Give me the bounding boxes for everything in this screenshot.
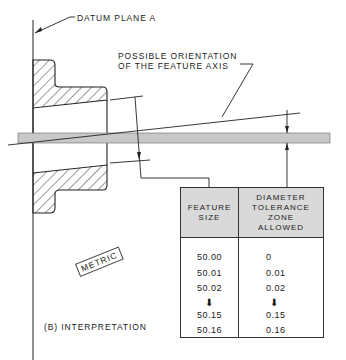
figure-caption: (B) INTERPRETATION bbox=[44, 322, 147, 332]
down-arrow-icon: ⬇ bbox=[266, 297, 279, 308]
header-feature-size: FEATURE SIZE bbox=[181, 188, 239, 237]
header-tolerance: DIAMETER TOLERANCE ZONE ALLOWED bbox=[239, 188, 323, 237]
tolerance-zone-band bbox=[18, 133, 330, 143]
table-cell: 50.15 bbox=[197, 308, 222, 324]
tolerance-column: 0 0.01 0.02 ⬇ 0.15 0.16 bbox=[239, 238, 323, 338]
lower-flange-section bbox=[33, 165, 107, 213]
table-cell: 0.02 bbox=[266, 281, 286, 297]
table-cell: 50.02 bbox=[197, 281, 222, 297]
orientation-label-line2: OF THE FEATURE AXIS bbox=[118, 61, 229, 71]
table-body: 50.00 50.01 50.02 ⬇ 50.15 50.16 0 0.01 0… bbox=[181, 238, 323, 338]
table-cell: 0.15 bbox=[266, 308, 286, 324]
feature-size-column: 50.00 50.01 50.02 ⬇ 50.15 50.16 bbox=[181, 238, 239, 338]
orientation-label-line1: POSSIBLE ORIENTATION bbox=[118, 51, 237, 61]
table-cell: 0.01 bbox=[266, 266, 286, 282]
tolerance-table: FEATURE SIZE DIAMETER TOLERANCE ZONE ALL… bbox=[180, 187, 324, 338]
orientation-leader bbox=[222, 64, 253, 117]
upper-flange-section bbox=[33, 60, 107, 108]
table-cell: 0 bbox=[266, 250, 272, 266]
down-arrow-icon: ⬇ bbox=[205, 297, 214, 308]
table-header: FEATURE SIZE DIAMETER TOLERANCE ZONE ALL… bbox=[181, 188, 323, 238]
table-cell: 0.16 bbox=[266, 323, 286, 339]
datum-plane-label: DATUM PLANE A bbox=[77, 13, 156, 23]
table-cell: 50.00 bbox=[197, 250, 222, 266]
table-cell: 50.16 bbox=[197, 323, 222, 339]
table-cell: 50.01 bbox=[197, 266, 222, 282]
